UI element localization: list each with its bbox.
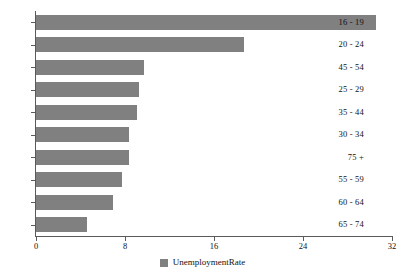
x-axis-tick-label: 16 (210, 242, 219, 251)
x-axis-tick-label: 8 (123, 242, 127, 251)
y-axis-tick (31, 112, 36, 113)
bar-60-64[interactable] (36, 195, 113, 210)
legend-label[interactable]: UnemploymentRate (173, 258, 245, 267)
y-axis-tick (31, 67, 36, 68)
x-axis-tick-label: 24 (299, 242, 308, 251)
y-axis-tick (31, 45, 36, 46)
legend-swatch-icon (160, 259, 168, 267)
y-axis-tick (31, 135, 36, 136)
y-axis-tick (31, 90, 36, 91)
bar-55-59[interactable] (36, 172, 122, 187)
y-axis-tick-label: 25 - 29 (339, 85, 364, 94)
y-axis-tick-label: 45 - 54 (339, 63, 364, 72)
y-axis-tick-label: 65 - 74 (339, 220, 364, 229)
y-axis-tick-label: 75 + (348, 153, 364, 162)
y-axis-tick-label: 35 - 44 (339, 108, 364, 117)
bar-45-54[interactable] (36, 60, 144, 75)
y-axis-tick (31, 225, 36, 226)
y-axis-tick (31, 180, 36, 181)
y-axis-tick (31, 202, 36, 203)
y-axis-tick-label: 16 - 19 (339, 18, 364, 27)
y-axis-tick (31, 22, 36, 23)
bar-16-19[interactable] (36, 15, 376, 30)
x-axis-tick-label: 0 (34, 242, 38, 251)
bar-25-29[interactable] (36, 82, 139, 97)
y-axis-tick (31, 157, 36, 158)
bar-chart: 16 - 1920 - 2445 - 5425 - 2935 - 4430 - … (0, 0, 405, 275)
bar-65-74[interactable] (36, 217, 87, 232)
y-axis-tick-label: 30 - 34 (339, 130, 364, 139)
x-axis-tick-label: 32 (388, 242, 397, 251)
chart-legend: UnemploymentRate (0, 258, 405, 267)
y-axis-tick-label: 60 - 64 (339, 198, 364, 207)
bar-35-44[interactable] (36, 105, 137, 120)
bar-30-34[interactable] (36, 127, 129, 142)
bar-row (36, 150, 392, 165)
y-axis-tick-label: 20 - 24 (339, 40, 364, 49)
bar-20-24[interactable] (36, 37, 244, 52)
bar-75plus[interactable] (36, 150, 129, 165)
y-axis-tick-label: 55 - 59 (339, 175, 364, 184)
